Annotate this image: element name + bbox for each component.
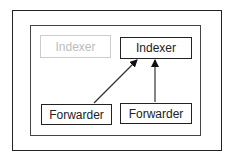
indexer-active-node: Indexer xyxy=(120,37,192,59)
arrow-forwarder1-to-indexer xyxy=(94,60,137,103)
forwarder-node-2: Forwarder xyxy=(120,103,192,124)
forwarder-node-1: Forwarder xyxy=(41,104,112,125)
arrows xyxy=(0,0,234,157)
indexer-inactive-node: Indexer xyxy=(40,35,111,58)
